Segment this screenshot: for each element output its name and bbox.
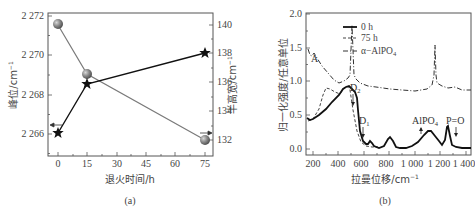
x-tick-800: 800 <box>379 158 394 169</box>
y-left-ticks <box>48 16 52 154</box>
chart-panel-b: 2.0 1.5 1.0 0.5 0.0 200 400 600 800 1 00… <box>240 0 475 210</box>
y-ticks-b <box>306 14 310 149</box>
annotation-alpo4: AlPO4 <box>412 115 439 134</box>
x-tick-1000: 1 000 <box>401 158 424 169</box>
series-peak-position-line <box>58 25 205 140</box>
arrow-down-icon <box>351 102 355 106</box>
x-tick-45: 45 <box>141 158 151 169</box>
star-markers <box>52 47 210 138</box>
marker-circle-75h <box>200 135 210 145</box>
x-tick-0: 0 <box>56 158 61 169</box>
chart-panel-a: 2 272 2 270 2 268 2 266 140 138 136 134 … <box>0 0 240 210</box>
marker-circle-15h <box>82 69 92 79</box>
plot-frame-a <box>48 13 213 156</box>
y-left-tick-2266: 2 266 <box>22 128 45 139</box>
legend-label-75h: 75 h <box>361 33 378 43</box>
marker-circle-0h <box>53 19 63 29</box>
x-tick-200: 200 <box>306 158 321 169</box>
svg-text:P=O: P=O <box>446 115 464 126</box>
x-axis-title-b: 拉曼位移/cm−1 <box>351 173 419 185</box>
y-tick-2.0: 2.0 <box>290 8 303 19</box>
x-tick-75: 75 <box>200 158 210 169</box>
y-right-axis-title: 半高宽/cm−1 <box>226 56 238 114</box>
svg-text:半高宽/cm−1: 半高宽/cm−1 <box>226 56 238 114</box>
x-tick-1200: 1 200 <box>428 158 451 169</box>
x-axis-title-a: 退火时间/h <box>105 173 155 185</box>
y-axis-title-b: 归一化强度/任意单位 <box>277 38 289 131</box>
svg-text:峰位/cm−1: 峰位/cm−1 <box>7 61 19 109</box>
x-tick-15: 15 <box>82 158 92 169</box>
series-fwhm-line <box>58 53 205 133</box>
y-right-tick-140: 140 <box>217 19 232 30</box>
x-ticks-b <box>313 151 466 155</box>
x-tick-600: 600 <box>354 158 369 169</box>
legend-label-0h: 0 h <box>361 22 373 32</box>
marker-star-0h <box>52 127 63 138</box>
y-tick-1.5: 1.5 <box>290 42 303 53</box>
x-tick-400: 400 <box>331 158 346 169</box>
chart-a-svg: 2 272 2 270 2 268 2 266 140 138 136 134 … <box>0 0 240 210</box>
svg-text:归一化强度/任意单位: 归一化强度/任意单位 <box>277 38 289 131</box>
x-tick-1400: 1 400 <box>453 158 475 169</box>
arrow-up-icon <box>419 127 423 131</box>
y-tick-0.0: 0.0 <box>290 143 303 154</box>
y-left-tick-2270: 2 270 <box>22 49 45 60</box>
x-tick-60: 60 <box>170 158 180 169</box>
svg-text:AlPO4: AlPO4 <box>412 115 439 127</box>
y-left-tick-2268: 2 268 <box>22 89 45 100</box>
caption-a: (a) <box>124 195 135 207</box>
x-ticks-a <box>58 152 205 156</box>
annotation-a: A <box>311 53 319 64</box>
y-right-tick-132: 132 <box>217 134 232 145</box>
svg-text:D2: D2 <box>350 82 360 94</box>
marker-star-75h <box>199 47 210 58</box>
axis-indicator-arrows <box>50 123 212 135</box>
legend-label-alpo4: α−AlPO4 <box>361 46 397 57</box>
series-75h-curve <box>308 86 378 147</box>
y-left-tick-2272: 2 272 <box>22 10 45 21</box>
caption-b: (b) <box>379 195 391 207</box>
chart-b-svg: 2.0 1.5 1.0 0.5 0.0 200 400 600 800 1 00… <box>240 0 475 210</box>
x-tick-30: 30 <box>112 158 122 169</box>
y-left-axis-title: 峰位/cm−1 <box>7 61 19 109</box>
y-right-ticks <box>209 25 213 140</box>
svg-text:D1: D1 <box>359 115 369 127</box>
y-tick-0.5: 0.5 <box>290 109 303 120</box>
series-alpo4-curve <box>308 25 471 91</box>
arrow-down-icon <box>454 133 458 137</box>
y-tick-1.0: 1.0 <box>290 75 303 86</box>
